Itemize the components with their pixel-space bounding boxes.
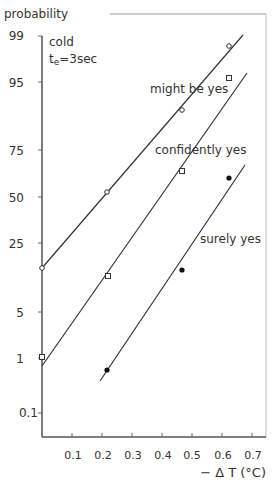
point-square [106,274,111,279]
series-label-confidently-yes: confidently yes [155,143,246,157]
point-circle [180,108,185,113]
y-tick-95: 95 [9,76,24,90]
y-tick-75: 75 [9,144,24,158]
line-confidently-yes [42,73,247,366]
y-tick-0-1: 0.1 [19,406,38,420]
y-axis-label: probability [4,7,68,21]
x-tick-0-2: 0.2 [94,449,112,462]
point-square [180,169,185,174]
y-tick-99: 99 [9,29,24,43]
point-square [40,355,45,360]
y-tick-labels: 99 95 75 50 25 5 1 0.1 [9,29,38,420]
point-dot [104,367,109,372]
y-tick-25: 25 [9,237,24,251]
x-tick-0-6: 0.6 [214,449,232,462]
markers-confidently-yes [40,76,232,360]
x-tick-0-3: 0.3 [124,449,142,462]
x-tick-0-7: 0.7 [244,449,262,462]
y-tick-50: 50 [9,191,24,205]
probability-chart: 99 95 75 50 25 5 1 0.1 0.1 0.2 0.3 0.4 0… [0,0,273,483]
point-dot [226,175,231,180]
te-label: te=3sec [49,52,97,67]
point-circle [105,190,110,195]
point-circle [40,266,45,271]
x-tick-0-5: 0.5 [183,449,201,462]
y-tick-5: 5 [16,306,24,320]
x-axis-label: − Δ T (°C) [200,465,266,480]
x-tick-labels: 0.1 0.2 0.3 0.4 0.5 0.6 0.7 [64,449,262,462]
x-tick-0-1: 0.1 [64,449,82,462]
point-dot [179,267,184,272]
condition-label: cold [49,35,74,49]
point-square [227,76,232,81]
markers-surely-yes [104,175,231,372]
point-circle [227,44,232,49]
y-tick-1: 1 [16,352,24,366]
series-label-surely-yes: surely yes [200,232,261,246]
series-label-might-be-yes: might be yes [150,82,228,96]
x-tick-0-4: 0.4 [154,449,172,462]
line-surely-yes [100,165,245,381]
